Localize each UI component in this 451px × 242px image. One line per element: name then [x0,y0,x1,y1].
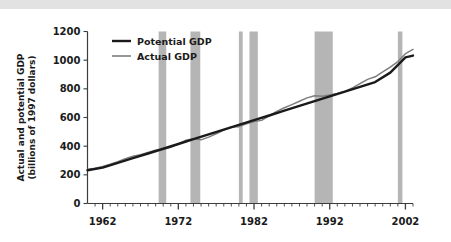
recession-band-2 [239,32,243,204]
y-tick-label-5: 1000 [53,55,81,66]
y-tick-label-4: 800 [60,83,81,94]
y-axis-title-line2: (billions of 1997 dollars) [27,55,37,179]
y-tick-label-6: 1200 [53,26,81,37]
x-tick-label-2: 1982 [240,216,268,227]
y-tick-label-1: 200 [60,169,81,180]
y-axis-title-group: Actual and potential GDP(billions of 199… [16,53,37,181]
y-tick-label-0: 0 [74,198,81,209]
x-tick-label-0: 1962 [89,216,117,227]
y-axis-title-line1: Actual and potential GDP [16,53,26,181]
y-axis-title: Actual and potential GDP(billions of 199… [16,53,37,181]
y-tick-label-2: 400 [60,141,81,152]
figure-container: 0200400600800100012001962197219821992200… [0,0,451,242]
y-tick-label-3: 600 [60,112,81,123]
x-tick-label-3: 1992 [316,216,344,227]
plot-axes-group [84,32,414,210]
legend-label-1: Actual GDP [137,51,197,62]
x-tick-label-1: 1972 [164,216,192,227]
x-tick-label-4: 2002 [392,216,420,227]
legend-label-0: Potential GDP [137,36,212,47]
recession-band-3 [249,32,257,204]
recession-band-4 [315,32,333,204]
gdp-line-chart: 0200400600800100012001962197219821992200… [0,0,451,242]
